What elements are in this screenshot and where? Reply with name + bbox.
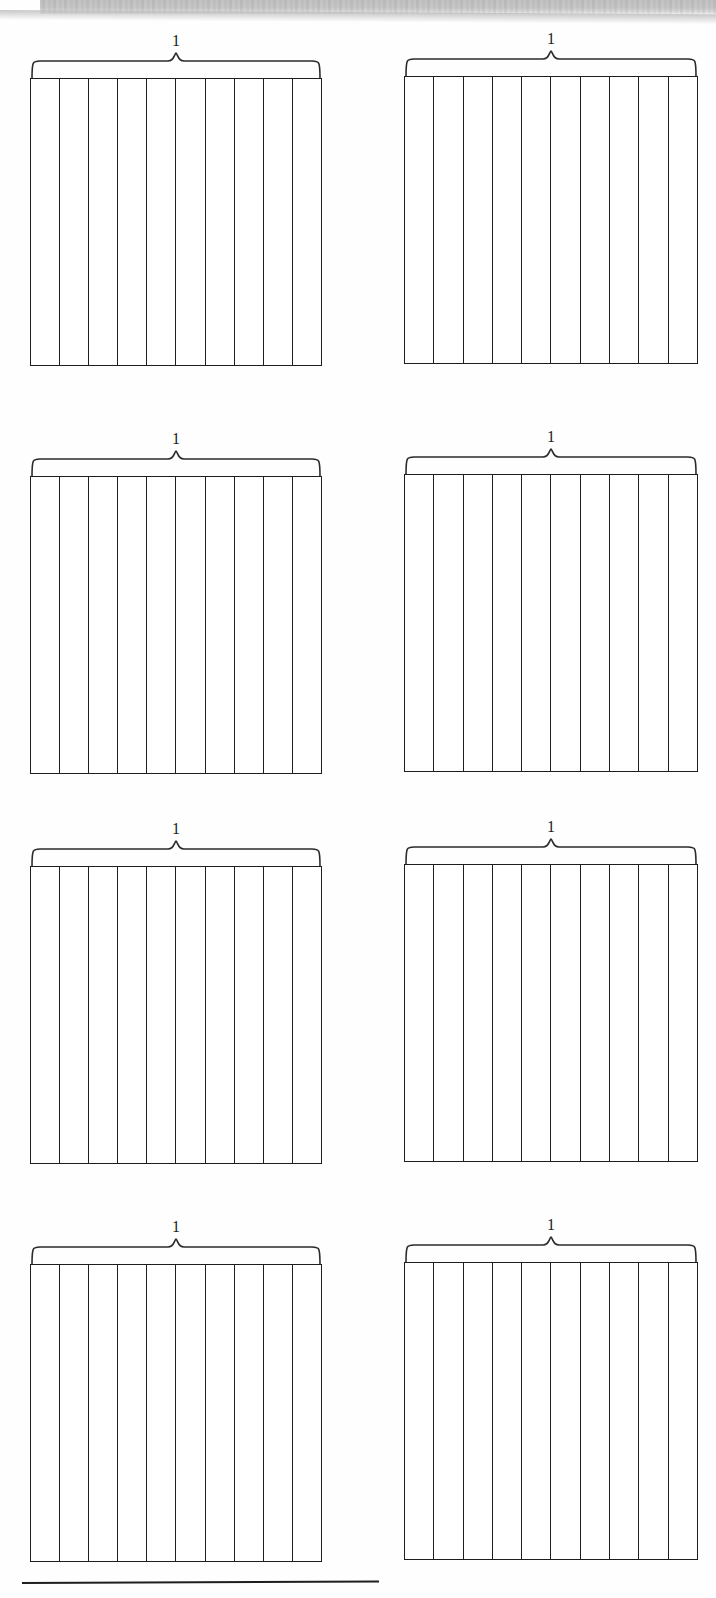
- brace-label-2: 1: [404, 30, 698, 48]
- bar-cell: [551, 77, 580, 363]
- bar-cell: [522, 77, 551, 363]
- bar-cell: [206, 1265, 235, 1561]
- bar-cell: [147, 79, 176, 365]
- bar-cell: [176, 1265, 205, 1561]
- bar-cell: [522, 1263, 551, 1559]
- bar-cell: [60, 1265, 89, 1561]
- bar-model-7-bar: [30, 1264, 322, 1562]
- bar-cell: [405, 1263, 434, 1559]
- bar-cell: [639, 865, 668, 1161]
- bar-model-1-bar: [30, 78, 322, 366]
- bar-cell: [434, 77, 463, 363]
- brace-label-3: 1: [30, 430, 322, 448]
- bar-model-3-bar: [30, 476, 322, 774]
- bar-cell: [522, 475, 551, 771]
- bar-cell: [206, 477, 235, 773]
- brace-label-6: 1: [404, 818, 698, 836]
- worksheet-page: 1 1: [0, 0, 716, 1598]
- brace-group-8: 1: [404, 1216, 698, 1262]
- brace-label-7: 1: [30, 1218, 322, 1236]
- bar-model-8: 1: [404, 1216, 698, 1560]
- bar-cell: [264, 867, 293, 1163]
- bar-cell: [493, 865, 522, 1161]
- bar-model-6: 1: [404, 818, 698, 1162]
- brace-icon: [30, 52, 322, 78]
- bar-cell: [405, 77, 434, 363]
- bar-cell: [118, 477, 147, 773]
- brace-group-4: 1: [404, 428, 698, 474]
- bar-cell: [464, 475, 493, 771]
- bar-cell: [293, 867, 321, 1163]
- bar-cell: [293, 79, 321, 365]
- bar-cell: [581, 865, 610, 1161]
- bar-cell: [176, 867, 205, 1163]
- bar-cell: [118, 867, 147, 1163]
- bar-cell: [581, 77, 610, 363]
- brace-label-5: 1: [30, 820, 322, 838]
- bar-cell: [235, 1265, 264, 1561]
- bar-cell: [176, 79, 205, 365]
- brace-label-8: 1: [404, 1216, 698, 1234]
- brace-group-3: 1: [30, 430, 322, 476]
- bar-cell: [31, 79, 60, 365]
- bar-cell: [610, 1263, 639, 1559]
- bar-model-2-bar: [404, 76, 698, 364]
- brace-icon: [404, 448, 698, 474]
- bar-cell: [669, 77, 697, 363]
- bar-cell: [493, 77, 522, 363]
- bar-cell: [639, 475, 668, 771]
- bar-cell: [610, 77, 639, 363]
- brace-label-4: 1: [404, 428, 698, 446]
- bar-cell: [235, 79, 264, 365]
- bar-model-3: 1: [30, 430, 322, 774]
- bar-cell: [89, 1265, 118, 1561]
- bar-cell: [89, 477, 118, 773]
- bar-cell: [551, 865, 580, 1161]
- brace-icon: [404, 838, 698, 864]
- bar-model-8-bar: [404, 1262, 698, 1560]
- bar-cell: [464, 1263, 493, 1559]
- bar-cell: [147, 867, 176, 1163]
- bar-model-5-bar: [30, 866, 322, 1164]
- bar-cell: [118, 1265, 147, 1561]
- bar-cell: [89, 79, 118, 365]
- brace-group-1: 1: [30, 32, 322, 78]
- bar-cell: [610, 475, 639, 771]
- bar-cell: [434, 475, 463, 771]
- bar-cell: [669, 865, 697, 1161]
- bar-cell: [434, 865, 463, 1161]
- brace-icon: [30, 450, 322, 476]
- bar-cell: [31, 477, 60, 773]
- brace-icon: [30, 840, 322, 866]
- bar-model-5: 1: [30, 820, 322, 1164]
- bar-cell: [639, 1263, 668, 1559]
- bar-model-4: 1: [404, 428, 698, 772]
- bar-cell: [264, 79, 293, 365]
- brace-icon: [30, 1238, 322, 1264]
- bar-cell: [60, 477, 89, 773]
- brace-group-7: 1: [30, 1218, 322, 1264]
- brace-label-1: 1: [30, 32, 322, 50]
- footer-rule: [22, 1580, 379, 1584]
- bar-model-6-bar: [404, 864, 698, 1162]
- bar-cell: [147, 477, 176, 773]
- bar-cell: [581, 475, 610, 771]
- bar-cell: [464, 77, 493, 363]
- bar-cell: [581, 1263, 610, 1559]
- bar-cell: [551, 1263, 580, 1559]
- bar-cell: [89, 867, 118, 1163]
- bar-cell: [293, 1265, 321, 1561]
- brace-icon: [404, 1236, 698, 1262]
- brace-icon: [404, 50, 698, 76]
- bar-cell: [235, 477, 264, 773]
- bar-cell: [522, 865, 551, 1161]
- bar-model-7: 1: [30, 1218, 322, 1562]
- bar-cell: [176, 477, 205, 773]
- bar-cell: [639, 77, 668, 363]
- bar-cell: [31, 867, 60, 1163]
- bar-cell: [147, 1265, 176, 1561]
- bar-cell: [669, 475, 697, 771]
- bar-cell: [206, 867, 235, 1163]
- bar-cell: [493, 1263, 522, 1559]
- bar-cell: [293, 477, 321, 773]
